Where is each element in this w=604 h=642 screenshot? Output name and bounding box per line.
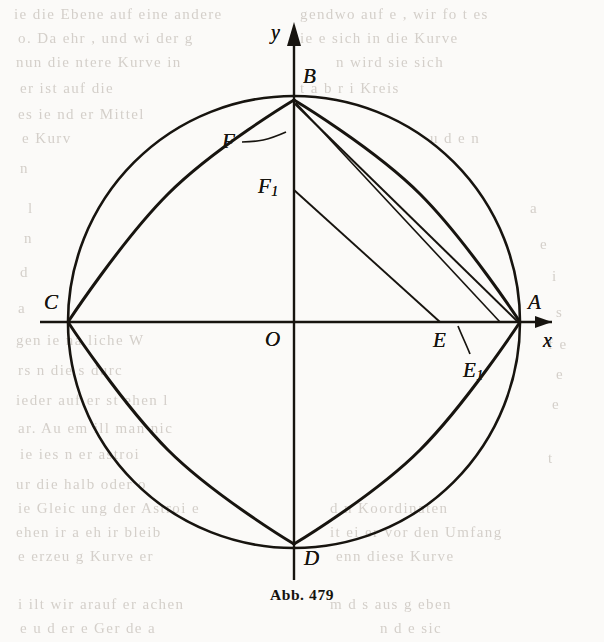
astroid-arc-AB — [294, 100, 520, 322]
figure-caption: Abb. 479 — [0, 586, 604, 604]
tangent-chord-F1-E — [294, 190, 440, 322]
point-label-B-text: B — [303, 64, 316, 88]
x-axis-label: x — [543, 330, 552, 350]
point-label-F: F — [222, 131, 235, 152]
origin-label-text: O — [265, 327, 280, 351]
point-label-A: A — [528, 292, 541, 313]
point-label-E-text: E — [433, 328, 446, 352]
astroid-arc-DA — [294, 322, 520, 544]
y-axis-arrowhead — [287, 22, 301, 46]
tangent-chord-B-E1 — [296, 103, 500, 322]
astroid-in-circle-figure — [0, 0, 604, 642]
point-label-F1-subscript: 1 — [271, 184, 278, 199]
point-label-E: E — [433, 330, 446, 351]
point-label-E1: E1 — [463, 360, 483, 381]
figure-caption-text: Abb. 479 — [270, 586, 334, 603]
point-label-E1-text: E — [463, 358, 476, 382]
astroid-arc-CD — [68, 322, 294, 544]
origin-label: O — [265, 329, 280, 350]
x-axis-arrowhead — [535, 316, 552, 328]
point-label-B: B — [303, 66, 316, 87]
point-label-F1: F1 — [258, 176, 278, 197]
x-axis-label-text: x — [543, 329, 552, 351]
figure-page: ie die Ebene auf eine anderegendwo auf e… — [0, 0, 604, 642]
point-label-E1-subscript: 1 — [476, 368, 483, 383]
y-axis-label-text: y — [271, 21, 280, 43]
y-axis-label: y — [271, 22, 280, 42]
point-label-C: C — [44, 292, 58, 313]
point-label-D-text: D — [304, 546, 319, 570]
point-label-C-text: C — [44, 290, 58, 314]
leader-line-E1 — [458, 326, 470, 354]
point-label-D: D — [304, 548, 319, 569]
point-label-A-text: A — [528, 290, 541, 314]
leader-line-F — [242, 132, 286, 142]
point-label-F1-text: F — [258, 174, 271, 198]
point-label-F-text: F — [222, 129, 235, 153]
astroid-arc-BC — [68, 100, 294, 322]
